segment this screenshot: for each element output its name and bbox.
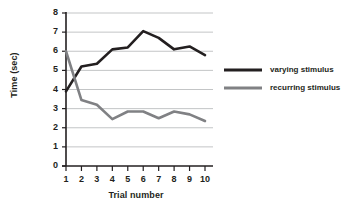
y-axis-tick-label: 4 [42,84,58,94]
y-axis-tick-label: 6 [42,45,58,55]
gridlines [66,13,213,147]
x-axis-title: Trial number [66,190,206,200]
x-axis-tick-label: 4 [105,174,119,184]
x-axis-tick-label: 9 [183,174,197,184]
legend-swatches [224,70,262,88]
legend-item-label: varying stimulus [270,65,334,74]
x-axis-tick-label: 5 [121,174,135,184]
y-axis-tick-label: 8 [42,7,58,17]
x-axis-tick-label: 1 [59,174,73,184]
x-axis-tick-label: 2 [74,174,88,184]
chart-figure: Time (sec) Trial number 012345678 123456… [0,0,346,215]
x-axis-tick-label: 8 [167,174,181,184]
y-axis-tick-label: 3 [42,103,58,113]
x-axis-tick-label: 6 [136,174,150,184]
y-axis-tick-label: 0 [42,160,58,170]
x-axis-tick-label: 10 [198,174,212,184]
x-axis-tick-label: 7 [152,174,166,184]
legend-item-label: recurring stimulus [270,83,340,92]
y-axis-tick-label: 1 [42,141,58,151]
y-axis-tick-label: 7 [42,26,58,36]
y-axis-tick-label: 2 [42,122,58,132]
data-series [66,31,205,121]
axis-lines [62,12,213,166]
x-axis-tick-label: 3 [90,174,104,184]
y-axis-tick-label: 5 [42,64,58,74]
y-axis-title: Time (sec) [9,42,19,108]
